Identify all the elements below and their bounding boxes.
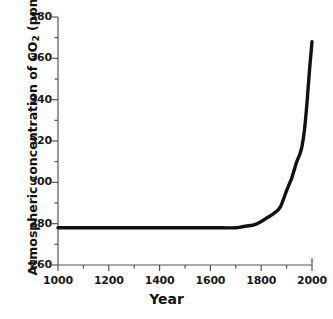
x-tick-label: 1200 [89, 274, 129, 287]
co2-series-line [58, 42, 312, 228]
x-tick-label: 1000 [38, 274, 78, 287]
x-tick-label: 2000 [292, 274, 332, 287]
y-axis-title-suffix: (ppm) [25, 0, 40, 35]
co2-concentration-chart: 260280300320340360380 100012001400160018… [0, 0, 333, 319]
x-axis-title-text: Year [149, 291, 184, 307]
x-tick-label: 1600 [190, 274, 230, 287]
y-axis-title-text: Atmospheric concentration of CO2 (ppm) [25, 0, 41, 275]
x-axis-title: Year [0, 290, 333, 308]
x-tick-label: 1400 [140, 274, 180, 287]
y-axis-title-prefix: Atmospheric concentration of CO [25, 42, 40, 276]
y-axis-title: Atmospheric concentration of CO2 (ppm) [23, 7, 43, 257]
x-tick-label: 1800 [241, 274, 281, 287]
chart-plot-area [0, 0, 333, 319]
y-axis-title-subscript: 2 [31, 35, 41, 41]
x-axis-ticks [58, 265, 312, 271]
